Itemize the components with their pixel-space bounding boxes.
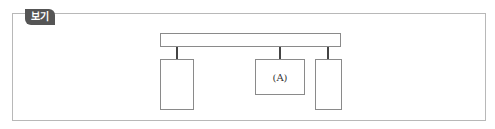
- left-box: [160, 59, 194, 110]
- right-box: [315, 59, 342, 110]
- top-bar: [160, 33, 341, 47]
- example-badge: 보기: [25, 9, 55, 25]
- example-frame: [12, 13, 486, 121]
- box-a: (A): [255, 59, 305, 95]
- box-a-label: (A): [256, 72, 304, 83]
